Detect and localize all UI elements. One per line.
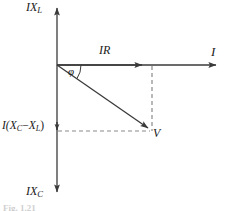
reactive-prefix: I(X	[2, 119, 17, 131]
phi-angle-arc	[77, 65, 81, 79]
y-axis-positive-sub: L	[37, 5, 42, 15]
v-vector-label: V	[153, 127, 160, 139]
phi-angle-label: φ	[68, 66, 74, 77]
y-axis-positive-label: IXL	[26, 1, 42, 15]
reactive-component-label: I(XC−XL)	[2, 120, 44, 134]
y-axis-negative-sub: C	[37, 189, 43, 199]
figure-caption: Fig. 1.21	[3, 203, 36, 211]
x-axis-label: I	[211, 45, 215, 58]
y-axis-negative-label: IXC	[26, 185, 43, 199]
phasor-diagram-figure: IXL IXC IR I V φ I(XC−XL) Fig. 1.21	[0, 0, 226, 211]
phasor-diagram-canvas	[0, 0, 226, 211]
reactive-suffix: )	[40, 119, 44, 131]
reactive-mid: X	[29, 119, 36, 131]
y-axis-positive-main: IX	[26, 0, 37, 14]
ir-vector-label: IR	[99, 44, 110, 56]
y-axis-negative-main: IX	[26, 184, 37, 198]
